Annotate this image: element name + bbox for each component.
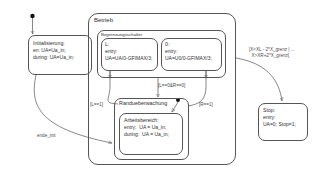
- state-stop-title: Stop:: [263, 107, 275, 113]
- state-initialisierung-en: en: UA=Ua_in;: [33, 47, 66, 53]
- state-r-entry: entry:: [165, 48, 178, 54]
- state-r-title: 0:: [165, 41, 169, 47]
- state-stop-action: UA=0; Stop=1;: [263, 121, 296, 127]
- state-stop-entry: entry:: [263, 114, 276, 120]
- transition-label-l0-r0: [L==0&R==0]: [158, 83, 185, 89]
- state-l-entry: entry:: [105, 48, 118, 54]
- transition-label-r-eq-1: [R==1]: [199, 102, 213, 108]
- state-arbeitsbereich-during: during: UA = Ua_in;: [124, 131, 169, 137]
- state-l-title: L:: [105, 41, 109, 47]
- transition-label-ende-init: ende_init: [37, 133, 56, 139]
- state-arbeitsbereich-entry: entry: UA = Ua_in;: [124, 124, 166, 130]
- state-r-action: UA=U0/0-GFIMAX/3;: [165, 55, 212, 61]
- transition-label-l-eq-1: [L==1]: [90, 102, 103, 108]
- default-transition-dot: [30, 14, 34, 18]
- transition-label-grenz: [X<XL - 2*X_grenz | ... X>XR+2*X_grenz]: [249, 47, 295, 58]
- state-initialisierung-title: Initialisierung:: [33, 40, 65, 46]
- state-l-action: UA=UA/0-GFIMAX/3;: [105, 55, 152, 61]
- state-initialisierung-during: during: UA=Ua_in;: [33, 54, 74, 60]
- arrow-to-stop: [236, 58, 282, 101]
- state-randueberwachung-title: Randueberwachung: [119, 100, 167, 106]
- state-arbeitsbereich-title: Arbeitsbereich:: [124, 117, 159, 123]
- state-betrieb-title: Betrieb: [94, 17, 113, 23]
- state-arbeitsbereich-body: entry: UA = Ua_in;during: UA = Ua_in;: [124, 124, 169, 138]
- state-l-body: entry:UA=UA/0-GFIMAX/3;: [105, 48, 152, 62]
- state-stop-body: entry:UA=0; Stop=1;: [263, 114, 296, 128]
- state-r-body: entry:UA=U0/0-GFIMAX/3;: [165, 48, 212, 62]
- state-initialisierung-body: en: UA=Ua_in;during: UA=Ua_in;: [33, 47, 74, 61]
- state-begrenzungsschalter-title: Begrenzungsschalter: [101, 32, 142, 37]
